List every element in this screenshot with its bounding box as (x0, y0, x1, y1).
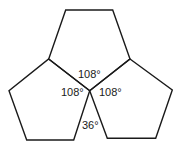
angle-label-gap: 36° (82, 119, 99, 131)
pentagons-diagram: 108° 108° 108° 36° (0, 0, 183, 149)
angle-label-right: 108° (99, 86, 122, 98)
angle-label-left: 108° (61, 86, 84, 98)
pentagon-right (90, 59, 173, 138)
angle-label-top: 108° (78, 68, 101, 80)
